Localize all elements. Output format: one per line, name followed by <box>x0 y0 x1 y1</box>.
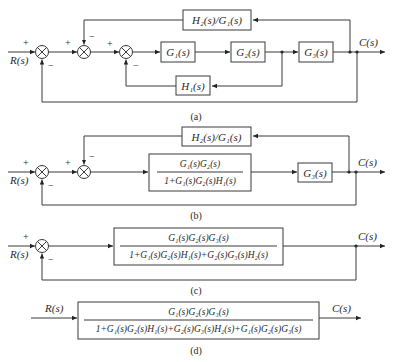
summing-junction-icon <box>36 166 49 179</box>
input-label: R(s) <box>9 248 29 261</box>
diagram-d: R(s) G₁(s)G₂(s)G₃(s) 1+G₁(s)G₂(s)H₁(s)+G… <box>31 302 361 357</box>
summing-junction-icon <box>120 46 133 59</box>
diagram-b: + R(s) − + − G₁(s)G₂(s) 1+G₁(s)G₂(s)H₁(s… <box>8 127 385 222</box>
block-inner-loop-denominator: 1+G₁(s)G₂(s)H₁(s) <box>164 176 236 187</box>
block-forward-denominator: 1+G₁(s)G₂(s)H₁(s)+G₂(s)G₃(s)H₂(s) <box>129 250 268 261</box>
block-h1-label: H₁(s) <box>180 80 205 93</box>
output-label: C(s) <box>358 156 377 169</box>
caption-b: (b) <box>190 210 202 222</box>
block-forward-numerator: G₁(s)G₂(s)G₃(s) <box>168 233 229 244</box>
sign-minus: − <box>48 254 54 265</box>
block-g3-label: G₃(s) <box>304 46 328 59</box>
summing-junction-icon <box>36 46 49 59</box>
sign-minus: − <box>89 151 95 162</box>
caption-a: (a) <box>190 111 201 123</box>
input-label: R(s) <box>9 174 29 187</box>
output-label: C(s) <box>359 36 378 49</box>
block-h2-over-g1-label: H₂(s)/G₁(s) <box>191 14 242 27</box>
block-closed-loop-numerator: G₁(s)G₂(s)G₃(s) <box>168 307 229 318</box>
sign-plus: + <box>23 157 29 168</box>
diagram-c: + R(s) − G₁(s)G₂(s)G₃(s) 1+G₁(s)G₂(s)H₁(… <box>8 228 385 297</box>
caption-d: (d) <box>190 345 202 357</box>
input-label: R(s) <box>44 302 64 315</box>
sign-plus: + <box>65 37 71 48</box>
diagram-a: + R(s) − + − + − G₁(s) <box>8 10 385 123</box>
input-label: R(s) <box>9 54 29 67</box>
summing-junction-icon <box>78 166 91 179</box>
block-g2-label: G₂(s) <box>236 46 260 59</box>
caption-c: (c) <box>190 285 201 297</box>
sign-minus: − <box>133 60 139 71</box>
sign-plus: + <box>23 231 29 242</box>
sign-plus: + <box>23 37 29 48</box>
block-closed-loop-denominator: 1+G₁(s)G₂(s)H₁(s)+G₂(s)G₃(s)H₂(s)+G₁(s)G… <box>96 324 302 335</box>
sign-minus: − <box>48 60 54 71</box>
output-label: C(s) <box>332 302 351 315</box>
block-g1-label: G₁(s) <box>166 46 190 59</box>
sign-minus: − <box>48 180 54 191</box>
block-h2-over-g1-label: H₂(s)/G₁(s) <box>191 131 242 144</box>
block-diagram-reduction: + R(s) − + − + − G₁(s) <box>0 0 393 362</box>
sign-minus: − <box>89 31 95 42</box>
output-label: C(s) <box>358 230 377 243</box>
block-inner-loop-numerator: G₁(s)G₂(s) <box>180 159 220 170</box>
summing-junction-icon <box>78 46 91 59</box>
sign-plus: + <box>65 157 71 168</box>
summing-junction-icon <box>36 240 49 253</box>
sign-plus: + <box>107 38 113 49</box>
block-g3-label: G₃(s) <box>303 167 327 180</box>
